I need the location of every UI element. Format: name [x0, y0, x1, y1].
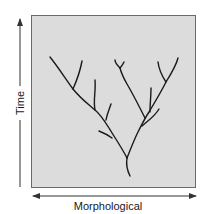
diagram-figure: Time Morphological — [0, 0, 208, 214]
y-axis-label: Time — [14, 89, 26, 117]
plot-area — [31, 15, 196, 188]
x-axis-label: Morphological — [0, 200, 208, 212]
